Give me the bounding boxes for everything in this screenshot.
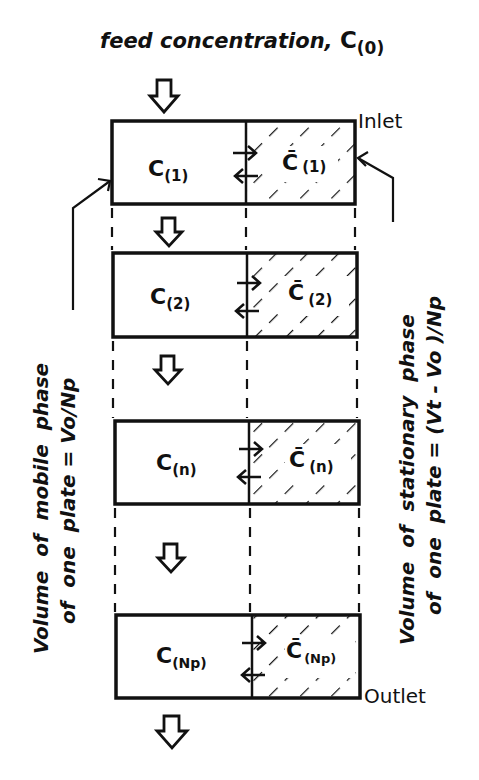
mobile-phase-volume-annotation: Volume of mobile phase of one plate = Vo… — [29, 363, 80, 654]
stationary-phase-pointer — [358, 152, 393, 222]
stationary-phase-volume-annotation: Volume of stationary phase of one plate … — [395, 296, 446, 645]
flow-arrow-icon — [158, 544, 184, 572]
plate-2: C(2) C̄(2) — [113, 253, 357, 337]
flow-arrow-icon — [156, 218, 182, 246]
plate-1: C(1) C̄(1) — [112, 121, 355, 204]
plate-model-diagram: feed concentration, C(0) C(1) C̄(1) — [0, 0, 479, 780]
svg-text:of one plate = (Vt - Vo )/Np: of one plate = (Vt - Vo )/Np — [422, 296, 446, 615]
svg-text:Volume of mobile phase: Volume of mobile phase — [29, 363, 53, 654]
plate-n: C(n) C̄(n) — [115, 421, 359, 504]
feed-concentration-label: feed concentration, C(0) — [100, 27, 384, 58]
svg-text:Volume of stationary phase: Volume of stationary phase — [395, 314, 419, 645]
flow-arrow-icon — [150, 80, 178, 112]
flow-arrow-icon — [155, 356, 181, 384]
inlet-label: Inlet — [358, 109, 402, 133]
outlet-label: Outlet — [364, 684, 426, 708]
svg-text:of one plate = Vo/Np: of one plate = Vo/Np — [56, 378, 80, 624]
mobile-phase-pointer — [73, 179, 110, 310]
outlet-flow-arrow-icon — [157, 716, 187, 748]
plate-np: C(Np) C̄(Np) — [116, 615, 360, 698]
